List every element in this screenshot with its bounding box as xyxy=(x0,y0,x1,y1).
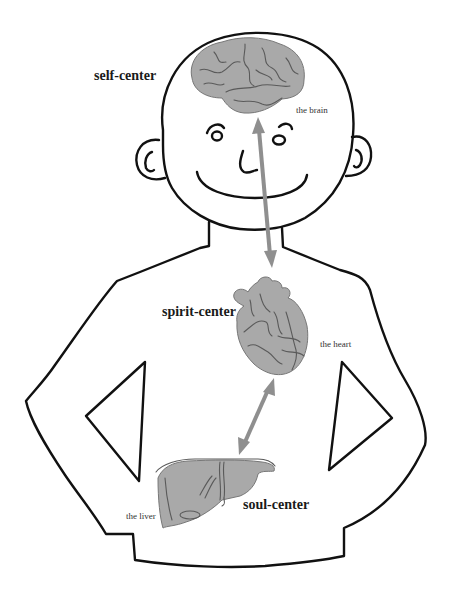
figure-drawing xyxy=(0,0,473,603)
heart-label: the heart xyxy=(320,339,351,349)
diagram-canvas: self-center the brain spirit-center the … xyxy=(0,0,473,603)
right-eye xyxy=(273,136,285,145)
soul-center-label: soul-center xyxy=(243,497,309,513)
left-arm-gap xyxy=(86,362,145,481)
right-arm-gap xyxy=(329,362,392,470)
right-eyebrow xyxy=(279,124,292,129)
smile xyxy=(197,172,307,198)
arrow-heart-liver xyxy=(238,378,275,455)
left-ear xyxy=(136,140,165,180)
face xyxy=(197,124,307,198)
nose xyxy=(240,151,257,173)
left-eye xyxy=(212,132,222,141)
brain-label: the brain xyxy=(296,105,328,115)
liver-icon xyxy=(156,459,275,528)
heart-icon xyxy=(234,277,308,375)
self-center-label: self-center xyxy=(94,68,156,84)
liver-label: the liver xyxy=(126,511,156,521)
spirit-center-label: spirit-center xyxy=(162,304,236,320)
body-outline xyxy=(26,222,426,567)
brain-icon xyxy=(191,38,304,113)
